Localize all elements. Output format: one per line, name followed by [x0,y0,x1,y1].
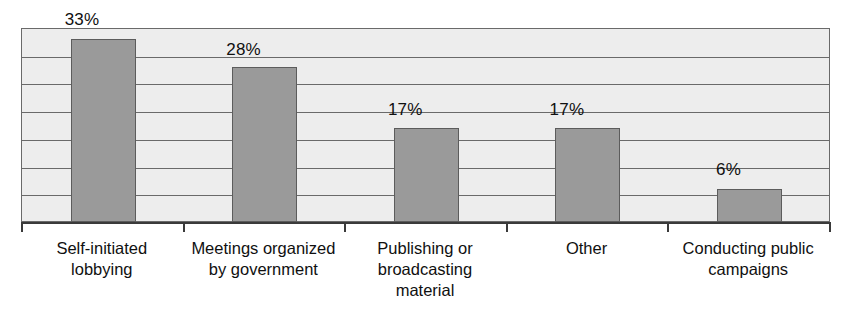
bar-publishing-or-broadcasting-material [394,128,459,222]
category-label-conducting-public-campaigns: Conducting public campaigns [667,238,829,280]
value-label: 28% [202,40,285,59]
x-axis-tick [183,222,185,232]
category-label-self-initiated-lobbying: Self-initiated lobbying [21,238,183,280]
x-axis-tick [344,222,346,232]
x-axis [21,222,830,224]
x-axis-tick [829,222,831,232]
x-axis-tick [21,222,23,232]
category-label-line: Other [506,238,668,259]
category-label-line: Meetings organized [183,238,345,259]
value-label: 6% [687,160,770,179]
category-label-line: by government [183,259,345,280]
category-label-line: Publishing or [344,238,506,259]
value-label: 33% [41,10,124,29]
category-label-line: Conducting public [667,238,829,259]
bar-conducting-public-campaigns [717,189,782,222]
x-axis-tick [667,222,669,232]
category-label-meetings-organized-by-government: Meetings organized by government [183,238,345,280]
bar-self-initiated-lobbying [71,39,136,222]
category-label-line: Self-initiated [21,238,183,259]
bar-other [555,128,620,222]
bar-meetings-organized-by-government [232,67,297,222]
category-label-publishing-or-broadcasting-material: Publishing or broadcasting material [344,238,506,301]
value-label: 17% [364,100,447,119]
bars-layer [21,28,830,222]
value-label: 17% [525,100,608,119]
category-label-line: material [344,280,506,301]
category-label-line: campaigns [667,259,829,280]
category-label-other: Other [506,238,668,259]
category-label-line: lobbying [21,259,183,280]
x-axis-tick [506,222,508,232]
category-label-line: broadcasting [344,259,506,280]
bar-chart: 33% 28% 17% 17% 6% Self-initiated lobbyi… [0,0,853,313]
